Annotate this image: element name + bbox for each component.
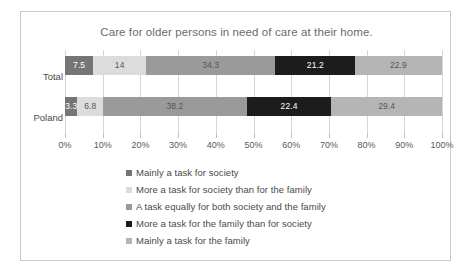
category-label-poland: Poland bbox=[21, 112, 63, 123]
bar-segment[interactable]: 29.4 bbox=[331, 97, 442, 116]
axis-tick-label: 40% bbox=[199, 140, 233, 150]
chart-title: Care for older persons in need of care a… bbox=[21, 26, 452, 38]
bar-segment[interactable]: 14 bbox=[93, 56, 146, 75]
legend-label: More a task for society than for the fam… bbox=[136, 184, 312, 195]
bar-row-poland[interactable]: 3.36.838.222.429.4 bbox=[65, 97, 442, 116]
bar-segment[interactable]: 6.8 bbox=[77, 97, 103, 116]
bar-segment[interactable]: 22.9 bbox=[355, 56, 441, 75]
legend-label: More a task for the family than for soci… bbox=[136, 218, 312, 229]
bar-value-label: 22.4 bbox=[281, 102, 298, 111]
bar-segment[interactable]: 34.3 bbox=[146, 56, 275, 75]
legend-swatch-icon bbox=[126, 170, 132, 176]
axis-tick bbox=[178, 134, 179, 138]
bar-row-total[interactable]: 7.51434.321.222.9 bbox=[65, 56, 442, 75]
axis-tick-label: 10% bbox=[86, 140, 120, 150]
legend-item[interactable]: More a task for society than for the fam… bbox=[126, 181, 426, 198]
bar-segment[interactable]: 38.2 bbox=[103, 97, 247, 116]
bar-value-label: 21.2 bbox=[307, 61, 324, 70]
legend-item[interactable]: A task equally for both society and the … bbox=[126, 198, 426, 215]
bar-value-label: 34.3 bbox=[202, 61, 219, 70]
axis-tick bbox=[140, 134, 141, 138]
legend-item[interactable]: Mainly a task for the family bbox=[126, 232, 426, 249]
legend-swatch-icon bbox=[126, 204, 132, 210]
axis-tick bbox=[103, 134, 104, 138]
bar-segment[interactable]: 22.4 bbox=[247, 97, 331, 116]
legend-swatch-icon bbox=[126, 187, 132, 193]
axis-tick-label: 30% bbox=[161, 140, 195, 150]
gridline bbox=[442, 50, 443, 134]
axis-tick-label: 70% bbox=[312, 140, 346, 150]
legend-swatch-icon bbox=[126, 238, 132, 244]
axis-tick-label: 0% bbox=[48, 140, 82, 150]
bar-value-label: 7.5 bbox=[73, 61, 85, 70]
legend-swatch-icon bbox=[126, 221, 132, 227]
axis-tick bbox=[216, 134, 217, 138]
axis-tick bbox=[442, 134, 443, 138]
axis-tick bbox=[65, 134, 66, 138]
bar-value-label: 38.2 bbox=[166, 102, 183, 111]
chart-legend: Mainly a task for societyMore a task for… bbox=[126, 164, 426, 249]
axis-tick bbox=[329, 134, 330, 138]
bar-value-label: 14 bbox=[115, 61, 125, 70]
legend-item[interactable]: Mainly a task for society bbox=[126, 164, 426, 181]
axis-tick-label: 20% bbox=[123, 140, 157, 150]
axis-tick-label: 60% bbox=[274, 140, 308, 150]
plot-area: 7.51434.321.222.9 3.36.838.222.429.4 bbox=[65, 50, 442, 134]
legend-item[interactable]: More a task for the family than for soci… bbox=[126, 215, 426, 232]
category-label-total: Total bbox=[21, 71, 63, 82]
legend-label: Mainly a task for society bbox=[136, 167, 239, 178]
axis-tick-label: 100% bbox=[425, 140, 459, 150]
bar-segment[interactable]: 21.2 bbox=[275, 56, 355, 75]
x-axis: 0%10%20%30%40%50%60%70%80%90%100% bbox=[65, 134, 442, 154]
axis-tick-label: 90% bbox=[387, 140, 421, 150]
bar-segment[interactable]: 7.5 bbox=[65, 56, 93, 75]
axis-tick-label: 50% bbox=[237, 140, 271, 150]
bar-segment[interactable]: 3.3 bbox=[65, 97, 77, 116]
bar-value-label: 29.4 bbox=[378, 102, 395, 111]
bar-value-label: 22.9 bbox=[390, 61, 407, 70]
bar-value-label: 3.3 bbox=[65, 102, 77, 111]
axis-tick-label: 80% bbox=[350, 140, 384, 150]
chart-container: Care for older persons in need of care a… bbox=[20, 11, 451, 261]
axis-tick bbox=[367, 134, 368, 138]
axis-tick bbox=[404, 134, 405, 138]
legend-label: A task equally for both society and the … bbox=[136, 201, 326, 212]
legend-label: Mainly a task for the family bbox=[136, 235, 250, 246]
axis-tick bbox=[254, 134, 255, 138]
bar-value-label: 6.8 bbox=[84, 102, 96, 111]
axis-tick bbox=[291, 134, 292, 138]
